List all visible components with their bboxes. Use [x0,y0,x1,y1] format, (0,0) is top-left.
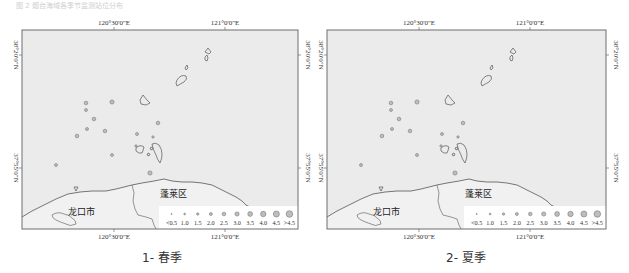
bottom-tick-label: 120°30'0"E [403,233,435,241]
station-marker [453,171,457,175]
legend-symbol [515,213,518,216]
legend-label: 4.0 [567,219,575,226]
top-tick-label: 121°0'0"E [516,19,545,27]
station-marker [416,154,419,157]
station-marker [111,154,114,157]
legend-label: 1.5 [194,219,202,226]
map-spring: 蓬莱区龙口市<0.51.01.52.02.53.03.54.04.5>4.512… [0,0,314,273]
station-marker [55,164,58,167]
station-marker [152,136,154,138]
legend-label: 3.5 [553,219,561,226]
station-marker [390,109,393,112]
station-marker [136,133,139,136]
bottom-tick-label: 121°0'0"E [516,233,545,241]
island [452,153,455,156]
right-tick-label: 38°20'0"N [612,40,620,69]
station-marker [440,145,442,147]
legend-symbol [594,211,601,218]
legend-symbol [222,212,226,216]
legend-symbol [171,213,172,214]
station-marker [457,136,459,138]
station-marker [397,117,401,121]
legend-label: 4.5 [272,219,280,226]
map-panel-spring: 蓬莱区龙口市<0.51.01.52.02.53.03.54.04.5>4.512… [0,0,314,273]
legend-symbol [476,213,477,214]
legend-label: 3.0 [540,219,548,226]
map-panel-summer: 蓬莱区龙口市<0.51.01.52.02.53.03.54.04.5>4.512… [305,0,619,273]
label-longkou: 龙口市 [68,206,95,217]
right-tick-label: 37°55'0"N [612,153,620,182]
station-marker [415,100,419,104]
top-tick-label: 120°30'0"E [98,19,130,27]
legend-label: <0.5 [471,219,482,226]
left-tick-label: 38°20'0"N [317,40,325,69]
legend-label: 1.0 [181,219,189,226]
station-marker [389,101,393,105]
station-marker [110,100,114,104]
legend-label: 2.0 [207,219,215,226]
legend-label: >4.5 [284,219,295,226]
label-penglai: 蓬莱区 [160,188,187,199]
caption-spring: 1- 春季 [142,248,182,265]
station-marker [360,164,363,167]
bottom-tick-label: 120°30'0"E [98,233,130,241]
legend-symbol [529,212,533,216]
legend-label: 1.5 [500,219,508,226]
legend-symbol [235,212,239,216]
station-marker [135,145,137,147]
legend-symbol [248,212,253,217]
station-marker [103,129,107,133]
station-marker [156,121,160,125]
station-marker [148,171,152,175]
legend-label: <0.5 [166,219,177,226]
legend-symbol [273,211,279,217]
legend-label: 3.5 [246,219,254,226]
left-tick-label: 38°20'0"N [12,40,20,69]
top-tick-label: 121°0'0"E [211,19,240,27]
top-tick-label: 120°30'0"E [403,19,435,27]
legend-symbol [542,212,546,216]
legend-label: 2.0 [513,219,521,226]
station-marker [75,134,79,138]
station-marker [85,109,88,112]
legend-symbol [197,213,199,215]
island [455,147,458,150]
legend-symbol [502,213,504,215]
legend-label: 2.5 [526,219,534,226]
legend-symbol [209,213,212,216]
legend-symbol [489,213,491,215]
station-marker [92,117,96,121]
station-marker [441,133,444,136]
station-marker [461,121,465,125]
legend-symbol [184,213,186,215]
left-tick-label: 37°55'0"N [12,153,20,182]
station-marker [380,134,384,138]
island [150,147,153,150]
legend-label: 4.5 [580,219,588,226]
legend-symbol [555,212,560,217]
legend-symbol [261,211,266,216]
legend-label: 4.0 [259,219,267,226]
legend-symbol [568,211,573,216]
legend-label: 2.5 [220,219,228,226]
bottom-tick-label: 121°0'0"E [211,233,240,241]
legend-label: 1.0 [486,219,494,226]
left-tick-label: 37°55'0"N [317,153,325,182]
station-marker [86,128,89,131]
legend-label: >4.5 [592,219,603,226]
map-summer: 蓬莱区龙口市<0.51.01.52.02.53.03.54.04.5>4.512… [305,0,629,273]
label-longkou: 龙口市 [373,206,400,217]
station-marker [84,101,88,105]
station-marker [408,129,412,133]
island [147,153,150,156]
legend-symbol [581,211,587,217]
label-penglai: 蓬莱区 [465,188,492,199]
legend-label: 3.0 [233,219,241,226]
station-marker [391,128,394,131]
legend-symbol [286,211,293,218]
caption-summer: 2- 夏季 [446,248,486,265]
